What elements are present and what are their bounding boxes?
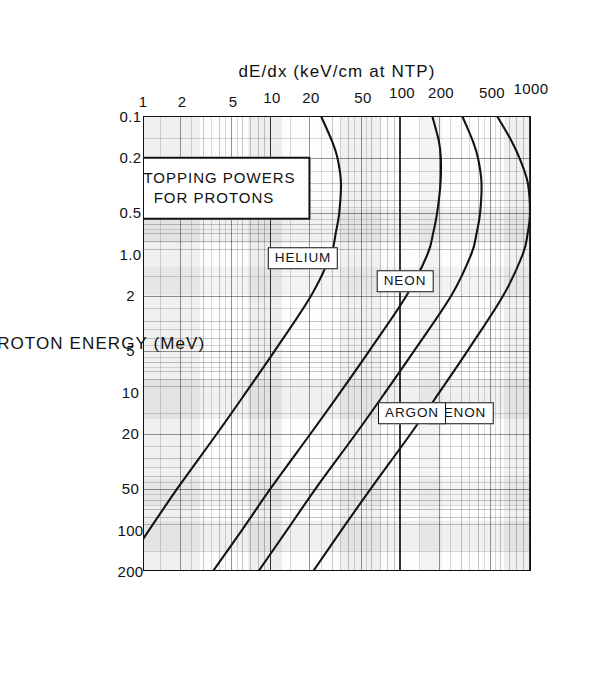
y-tick-label: 2 [177,93,186,110]
y-tick-label: 500 [478,84,504,101]
chart-title-box: STOPPING POWERS FOR PROTONS [143,157,311,220]
x-tick-label: 50 [121,479,139,496]
figure-inner: XENONARGONNEONHELIUM STOPPING POWERS FOR… [73,54,543,634]
x-tick-label: 20 [121,424,139,441]
y-tick-label: 1000 [513,80,548,97]
y-axis-title: dE/dx (keV/cm at NTP) [238,62,435,82]
x-tick-label: 1.0 [119,245,141,262]
y-tick-label: 5 [229,93,238,110]
x-tick-label: 0.2 [119,148,141,165]
series-label-argon: ARGON [378,402,446,424]
y-tick-label: 100 [388,84,414,101]
x-tick-label: 0.5 [119,203,141,220]
curve-xenon [313,117,529,570]
y-tick-label: 10 [263,88,281,105]
y-tick-label: 20 [302,88,320,105]
rotated-figure-container: XENONARGONNEONHELIUM STOPPING POWERS FOR… [73,54,543,634]
figure-page: XENONARGONNEONHELIUM STOPPING POWERS FOR… [0,0,615,687]
legend-line-1: STOPPING POWERS [143,168,296,188]
y-tick-label: 50 [353,88,371,105]
x-tick-label: 10 [121,383,139,400]
series-label-neon: NEON [376,270,433,292]
x-tick-label: 200 [117,562,143,579]
series-label-helium: HELIUM [267,247,337,269]
legend-line-2: FOR PROTONS [143,188,296,208]
y-tick-label: 1 [138,93,147,110]
y-tick-label: 200 [427,84,453,101]
x-tick-label: 2 [126,286,135,303]
x-tick-label: 100 [117,521,143,538]
x-axis-title: PROTON ENERGY (MeV) [0,334,205,354]
